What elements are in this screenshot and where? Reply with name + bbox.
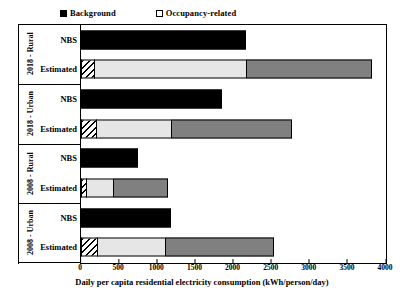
bar-segment-light-gray	[94, 60, 246, 79]
legend-item-background: Background	[60, 8, 116, 18]
x-tick-mark	[194, 259, 195, 263]
group-title-2008-urban: 2008 - Urban	[0, 203, 60, 262]
x-tick-label: 2500	[263, 263, 278, 272]
x-tick-mark	[233, 259, 234, 263]
legend-label-occupancy: Occupancy-related	[166, 8, 236, 18]
x-tick-label: 4000	[378, 263, 393, 272]
bar-segment-light-gray	[86, 179, 113, 198]
group-title-2008-rural: 2008 - Rural	[0, 144, 60, 203]
row-label-2018-rural-nbs: NBS	[60, 35, 77, 45]
x-tick-label: 0	[78, 263, 82, 272]
row-label-2018-urban-nbs: NBS	[60, 94, 77, 104]
bar-segment-light-gray	[96, 120, 171, 139]
bar-segment-hatched	[81, 120, 96, 139]
chart-legend: Background Occupancy-related	[0, 6, 404, 20]
row-label-2008-rural-nbs: NBS	[60, 153, 77, 163]
x-tick-4000: 4000	[378, 263, 393, 272]
x-tick-mark	[271, 259, 272, 263]
row-label-2018-urban-estimated: Estimated	[40, 124, 77, 134]
bar-2018urban-nbs	[81, 90, 222, 109]
bar-2018rural-nbs	[81, 31, 246, 50]
row-label-2018-rural-estimated: Estimated	[40, 64, 77, 74]
x-tick-0: 0	[78, 263, 82, 272]
bar-2008urban-estimated	[81, 238, 274, 257]
x-axis-ticks: 05001000150020002500300035004000	[0, 263, 404, 275]
bar-2008urban-nbs	[81, 209, 171, 228]
x-tick-3000: 3000	[301, 263, 316, 272]
legend-label-background: Background	[70, 8, 116, 18]
bar-segment-dark-gray	[171, 120, 292, 139]
x-tick-1500: 1500	[187, 263, 202, 272]
x-tick-2000: 2000	[225, 263, 240, 272]
bar-segment-light-gray	[97, 238, 165, 257]
category-axis: 2018 - Rural 2018 - Urban 2008 - Rural 2…	[0, 24, 80, 264]
bar-2018urban-estimated	[81, 120, 292, 139]
bar-segment-solid-black	[81, 149, 138, 168]
bar-segment-solid-black	[81, 31, 246, 50]
x-tick-mark	[80, 259, 81, 263]
x-axis-label: Daily per capita residential electricity…	[0, 277, 404, 287]
row-label-2008-rural-estimated: Estimated	[40, 183, 77, 193]
row-label-2008-urban-estimated: Estimated	[40, 242, 77, 252]
x-tick-label: 500	[113, 263, 124, 272]
x-tick-mark	[309, 259, 310, 263]
bars-layer	[81, 24, 385, 262]
x-tick-label: 1500	[187, 263, 202, 272]
bar-segment-hatched	[81, 238, 97, 257]
bar-segment-dark-gray	[246, 60, 372, 79]
x-tick-label: 2000	[225, 263, 240, 272]
chart-container: Background Occupancy-related 2018 - Rura…	[0, 0, 404, 301]
legend-swatch-occupancy-icon	[156, 10, 163, 17]
x-tick-mark	[118, 259, 119, 263]
bar-segment-dark-gray	[165, 238, 274, 257]
x-tick-1000: 1000	[149, 263, 164, 272]
group-title-2018-urban: 2018 - Urban	[0, 84, 60, 144]
bar-2008rural-estimated	[81, 179, 168, 198]
bar-segment-solid-black	[81, 209, 171, 228]
x-tick-mark	[385, 259, 386, 263]
x-tick-label: 1000	[149, 263, 164, 272]
x-tick-label: 3000	[301, 263, 316, 272]
bar-2018rural-estimated	[81, 60, 372, 79]
bar-segment-solid-black	[81, 90, 222, 109]
x-tick-mark	[347, 259, 348, 263]
row-label-2008-urban-nbs: NBS	[60, 213, 77, 223]
x-tick-mark	[156, 259, 157, 263]
group-title-2018-rural: 2018 - Rural	[0, 24, 60, 84]
bar-2008rural-nbs	[81, 149, 138, 168]
x-tick-2500: 2500	[263, 263, 278, 272]
bar-segment-hatched	[81, 60, 94, 79]
x-tick-3500: 3500	[339, 263, 354, 272]
legend-item-occupancy: Occupancy-related	[156, 8, 236, 18]
legend-swatch-background-icon	[60, 10, 67, 17]
bar-segment-dark-gray	[113, 179, 168, 198]
x-tick-500: 500	[113, 263, 124, 272]
x-tick-label: 3500	[339, 263, 354, 272]
